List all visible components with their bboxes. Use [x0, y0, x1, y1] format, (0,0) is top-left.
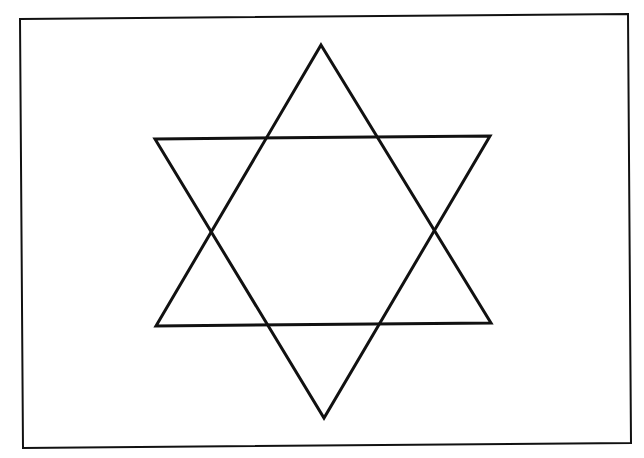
upward-triangle: [156, 45, 491, 326]
downward-triangle: [155, 136, 490, 418]
hexagram-diagram: [0, 0, 644, 458]
frame-border: [20, 14, 631, 448]
